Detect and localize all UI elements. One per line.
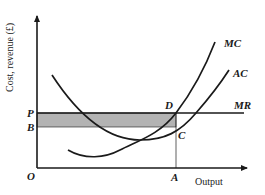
cost-revenue-diagram (0, 0, 265, 195)
price-label-p: P (27, 108, 34, 119)
output-label-a: A (171, 172, 178, 183)
y-axis-label: Cost, revenue (£) (4, 23, 15, 92)
mr-label: MR (234, 100, 251, 111)
origin-label: O (27, 171, 35, 182)
point-label-c: C (178, 130, 185, 141)
profit-area (37, 113, 176, 127)
mc-curve (68, 42, 215, 157)
cost-label-b: B (27, 122, 34, 133)
ac-label: AC (233, 68, 248, 79)
mc-label: MC (224, 38, 241, 49)
point-label-d: D (165, 100, 173, 111)
x-axis-label: Output (195, 177, 223, 187)
ac-curve (52, 70, 229, 140)
